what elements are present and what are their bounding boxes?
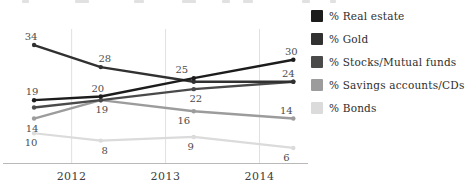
- line-stocks-mutual-funds: [34, 82, 293, 108]
- value-label-bonds-0: 10: [25, 137, 38, 148]
- legend-swatch-real-estate: [311, 10, 323, 22]
- legend-swatch-savings-accounts-cds: [311, 79, 323, 91]
- value-label-savings-accounts-cds-0: 14: [26, 123, 39, 134]
- value-label-real-estate-1: 20: [91, 83, 104, 94]
- legend-swatch-stocks-mutual-funds: [311, 56, 323, 68]
- point-bonds-1: [99, 138, 103, 142]
- value-label-gold-1: 28: [98, 53, 111, 64]
- value-label-stocks-mutual-funds-2: 22: [189, 93, 202, 104]
- point-real-estate-1: [99, 94, 103, 98]
- value-label-savings-accounts-cds-2: 16: [177, 115, 190, 126]
- value-label-savings-accounts-cds-3: 14: [280, 105, 293, 116]
- value-label-bonds-1: 8: [102, 145, 108, 156]
- legend-item-savings-accounts-cds: % Savings accounts/CDs: [311, 78, 465, 92]
- point-bonds-3: [291, 146, 295, 150]
- legend-swatch-gold: [311, 33, 323, 45]
- chart-legend: % Real estate% Gold% Stocks/Mutual funds…: [311, 9, 465, 115]
- line-bonds: [34, 133, 293, 148]
- legend-item-real-estate: % Real estate: [311, 9, 465, 23]
- point-real-estate-3: [291, 58, 295, 62]
- legend-label-stocks-mutual-funds: % Stocks/Mutual funds: [329, 56, 456, 68]
- value-label-savings-accounts-cds-1: 19: [95, 104, 108, 115]
- point-gold-1: [99, 65, 103, 69]
- point-bonds-2: [192, 135, 196, 139]
- point-gold-3: [291, 80, 295, 84]
- point-savings-accounts-cds-3: [291, 116, 295, 120]
- value-label-real-estate-3: 30: [285, 46, 298, 57]
- x-tick-2013: 2013: [151, 170, 181, 183]
- point-gold-0: [32, 43, 36, 47]
- value-label-real-estate-0: 19: [26, 86, 39, 97]
- value-label-gold-3: 24: [282, 68, 295, 79]
- point-savings-accounts-cds-2: [192, 109, 196, 113]
- legend-label-real-estate: % Real estate: [329, 10, 405, 22]
- legend-item-gold: % Gold: [311, 32, 465, 46]
- line-gold: [34, 45, 293, 82]
- legend-swatch-bonds: [311, 102, 323, 114]
- point-stocks-mutual-funds-0: [32, 105, 36, 109]
- value-label-bonds-3: 6: [283, 152, 289, 163]
- value-label-gold-0: 34: [25, 31, 38, 42]
- legend-label-gold: % Gold: [329, 33, 368, 45]
- point-savings-accounts-cds-0: [32, 116, 36, 120]
- x-tick-2012: 2012: [57, 170, 87, 183]
- point-real-estate-2: [192, 76, 196, 80]
- legend-label-bonds: % Bonds: [329, 102, 377, 114]
- value-label-bonds-2: 9: [188, 141, 194, 152]
- point-real-estate-0: [32, 98, 36, 102]
- legend-item-bonds: % Bonds: [311, 101, 465, 115]
- legend-label-savings-accounts-cds: % Savings accounts/CDs: [329, 79, 465, 91]
- x-tick-2014: 2014: [245, 170, 275, 183]
- legend-item-stocks-mutual-funds: % Stocks/Mutual funds: [311, 55, 465, 69]
- point-stocks-mutual-funds-2: [192, 87, 196, 91]
- line-real-estate: [34, 60, 293, 100]
- value-label-real-estate-2: 25: [175, 64, 188, 75]
